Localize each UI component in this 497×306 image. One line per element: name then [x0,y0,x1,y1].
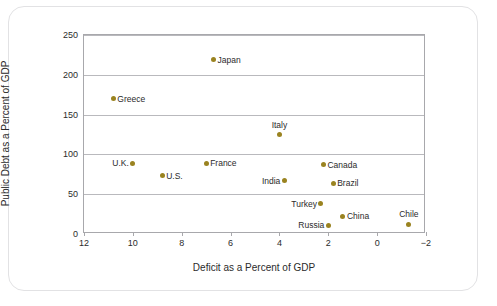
x-tick-mark [279,232,280,236]
data-point [406,222,411,227]
data-point [160,173,165,178]
gridline [84,35,424,36]
x-tick-mark [328,232,329,236]
data-point [340,214,345,219]
x-tick-label: 2 [326,238,331,248]
data-point [111,96,116,101]
x-tick-mark [231,232,232,236]
x-tick-label: 0 [375,238,380,248]
x-tick-mark [182,232,183,236]
data-point-label: Turkey [291,199,317,208]
data-point-label: Canada [327,160,357,169]
data-point-label: France [210,159,236,168]
x-tick-label: 10 [128,238,138,248]
data-point [326,223,331,228]
data-point-label: Chile [399,210,418,219]
y-tick-label: 0 [73,229,78,239]
chart-figure: 050100150200250 121086420−2 JapanGreeceI… [0,0,497,306]
y-axis-title: Public Debt as a Percent of GDP [0,34,14,233]
data-point [282,178,287,183]
data-point-label: Brazil [337,179,358,188]
data-point-label: Greece [117,94,145,103]
y-tick-label: 100 [63,149,78,159]
x-tick-mark [84,232,85,236]
data-point [318,201,323,206]
gridline [84,194,424,195]
x-tick-mark [377,232,378,236]
data-point-label: India [262,176,280,185]
data-point [321,162,326,167]
x-tick-label: −2 [421,238,431,248]
x-tick-mark [133,232,134,236]
x-tick-label: 8 [179,238,184,248]
data-point-label: U.S. [166,171,183,180]
data-point [331,181,336,186]
data-point [211,57,216,62]
gridline [84,154,424,155]
data-point-label: China [347,212,369,221]
data-point-label: Japan [217,55,240,64]
y-tick-label: 50 [68,189,78,199]
x-tick-label: 4 [277,238,282,248]
data-point-label: Italy [272,121,288,130]
data-point-label: Russia [298,221,324,230]
y-tick-label: 250 [63,30,78,40]
data-point [204,161,209,166]
x-tick-mark [426,232,427,236]
y-tick-label: 150 [63,110,78,120]
x-tick-label: 12 [79,238,89,248]
data-point [277,132,282,137]
data-point [130,161,135,166]
gridline [84,115,424,116]
gridline [84,75,424,76]
y-tick-label: 200 [63,70,78,80]
plot-area: 050100150200250 121086420−2 JapanGreeceI… [83,34,425,233]
data-point-label: U.K. [112,159,129,168]
x-axis-title: Deficit as a Percent of GDP [83,262,425,273]
x-tick-label: 6 [228,238,233,248]
